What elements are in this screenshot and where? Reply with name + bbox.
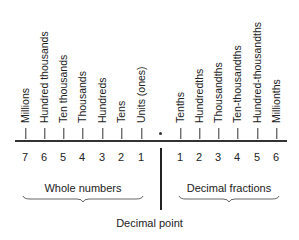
place-column-tenths: Tenths	[171, 0, 190, 140]
place-column-hundred-thousands: Hundred thousands	[35, 0, 54, 140]
digit: 3	[211, 151, 225, 163]
place-label: Millionths	[271, 79, 282, 123]
digit: 2	[114, 151, 128, 163]
place-label: Hundreds	[97, 77, 108, 123]
place-column-millionths: Millionths	[267, 0, 286, 140]
place-column-millions: Millions	[16, 0, 35, 140]
place-label: Thousands	[77, 71, 88, 123]
place-label: Tens	[116, 101, 127, 123]
tick-mark	[180, 128, 181, 139]
place-column-thousands: Thousands	[73, 0, 92, 140]
digit: 1	[173, 151, 187, 163]
tick-mark	[218, 128, 219, 139]
tick-mark	[121, 128, 122, 139]
tick-mark	[25, 128, 26, 139]
place-column-ten-thousands: Ten thousands	[54, 0, 73, 140]
place-label: Units (ones)	[136, 66, 147, 123]
tick-mark	[63, 128, 64, 139]
place-label: Ten-thousandths	[232, 45, 243, 123]
decimal-point-label: Decimal point	[0, 217, 299, 229]
tick-mark	[44, 128, 45, 139]
place-column-thousandths: Thousandths	[209, 0, 228, 140]
digit: 6	[269, 151, 283, 163]
tick-mark	[276, 128, 277, 139]
digit: 3	[95, 151, 109, 163]
place-column-hundred-thousandths: Hundred-thousandths	[248, 0, 267, 140]
tick-mark	[257, 128, 258, 139]
place-column-hundredths: Hundredths	[190, 0, 209, 140]
place-label: Hundred-thousandths	[252, 22, 263, 123]
digit: 4	[75, 151, 89, 163]
place-label: Tenths	[175, 92, 186, 123]
place-column-ten-thousandths: Ten-thousandths	[228, 0, 247, 140]
decimal-point-pointer-line	[160, 148, 162, 210]
digit: 5	[250, 151, 264, 163]
place-label: Ten thousands	[58, 55, 69, 123]
digit: 1	[134, 151, 148, 163]
place-value-diagram: Millions Hundred thousands Ten thousands…	[0, 0, 299, 240]
tick-mark	[82, 128, 83, 139]
decimal-fractions-label: Decimal fractions	[178, 182, 280, 194]
place-label: Thousandths	[213, 62, 224, 123]
place-column-hundreds: Hundreds	[93, 0, 112, 140]
place-label: Millions	[20, 88, 31, 123]
tick-mark	[237, 128, 238, 139]
digit: 4	[230, 151, 244, 163]
digit: 7	[18, 151, 32, 163]
digit: 2	[192, 151, 206, 163]
place-column-tens: Tens	[112, 0, 131, 140]
decimal-fractions-brace-icon	[178, 195, 280, 203]
whole-numbers-brace-icon	[22, 195, 144, 203]
digit: 6	[37, 151, 51, 163]
place-label: Hundredths	[194, 69, 205, 123]
place-column-units: Units (ones)	[132, 0, 151, 140]
tick-mark	[199, 128, 200, 139]
decimal-point-dot-icon	[159, 132, 162, 135]
whole-numbers-label: Whole numbers	[22, 182, 144, 194]
place-label: Hundred thousands	[39, 31, 50, 123]
tick-mark	[141, 128, 142, 139]
digit: 5	[56, 151, 70, 163]
baseline-divider	[15, 140, 287, 142]
tick-mark	[102, 128, 103, 139]
